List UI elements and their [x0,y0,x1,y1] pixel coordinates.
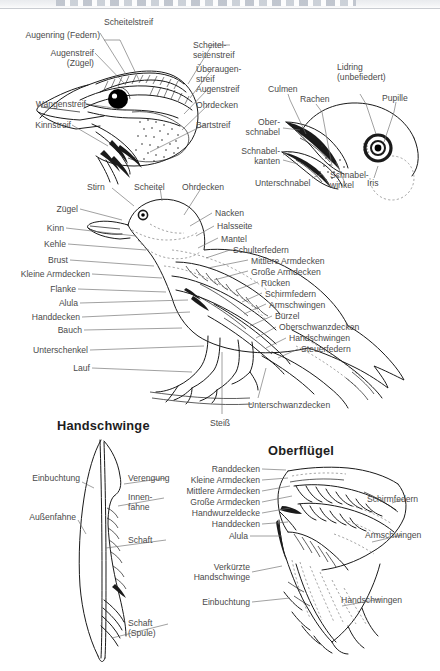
label-handwurzeldecke: Handwurzeldecke [170,508,260,518]
label-kleine-armdecken-wing: Kleine Armdecken [170,475,260,485]
label-schirmfedern-wing: Schirmfedern [367,494,418,504]
label-randdecken: Randdecken [190,464,260,474]
label-verkuerzte-handschwinge: Verkürzte Handschwinge [168,562,250,582]
label-handdecken-wing: Handdecken [186,519,260,529]
label-alula-wing: Alula [204,531,248,541]
page-canvas: Augenring (Federn) Augenstreif (Zügel) W… [0,0,440,671]
label-mittlere-armdecken-wing: Mittlere Armdecken [164,486,260,496]
label-armschwingen-wing: Armschwingen [365,530,421,540]
label-handschwingen-wing: Handschwingen [341,595,402,605]
label-grosse-armdecken-wing: Große Armdecken [166,497,260,507]
label-einbuchtung-wing: Einbuchtung [178,597,250,607]
